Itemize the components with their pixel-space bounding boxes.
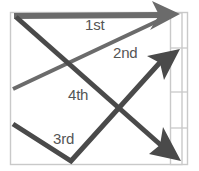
stroke-order-label-1st: 1st [85, 17, 104, 32]
stroke-order-label-4th: 4th [68, 87, 88, 102]
stroke-order-label-3rd: 3rd [53, 131, 74, 146]
stroke-order-label-2nd: 2nd [113, 45, 137, 60]
strip-outline [171, 13, 183, 165]
diagram-canvas: 1st 2nd 3rd 4th [0, 0, 199, 171]
